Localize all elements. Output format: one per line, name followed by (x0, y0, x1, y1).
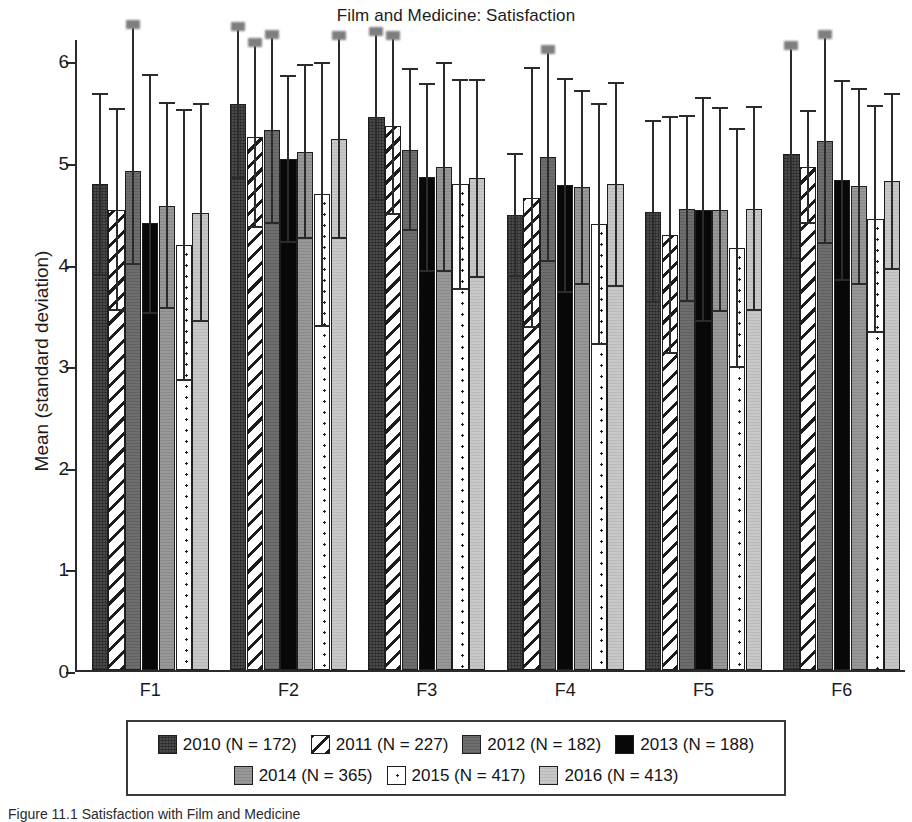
bar-f3-2010[interactable] (368, 40, 384, 670)
bar-f6-2010[interactable] (783, 40, 799, 670)
bar-f6-2016[interactable] (884, 40, 900, 670)
error-bar-cap-upper (369, 27, 383, 36)
error-bar-cap-upper (193, 103, 209, 105)
error-bar-cap-upper (834, 80, 850, 82)
error-bar-cap-lower (540, 260, 556, 262)
legend-item-2015[interactable]: 2015 (N = 417) (387, 766, 526, 786)
legend-swatch-icon (539, 766, 558, 785)
bar-f6-2014[interactable] (851, 40, 867, 670)
bar-f1-2015[interactable] (176, 40, 192, 670)
error-bar-cap-upper (695, 97, 711, 99)
bar-f1-2016[interactable] (192, 40, 208, 670)
error-bar-cap-lower (695, 320, 711, 322)
error-bar-cap-lower (557, 291, 573, 293)
error-bar-cap-upper (469, 79, 485, 81)
error-bar-line (99, 94, 101, 275)
legend-item-2012[interactable]: 2012 (N = 182) (462, 735, 601, 755)
y-tick-label: 0 (58, 661, 69, 683)
error-bar-line (287, 76, 289, 243)
bar-f3-2012[interactable] (402, 40, 418, 670)
legend-item-2016[interactable]: 2016 (N = 413) (539, 766, 678, 786)
bar-group-f4 (507, 40, 624, 670)
error-bar-cap-lower (507, 275, 523, 277)
x-tick-label-f5: F5 (693, 680, 714, 701)
legend-swatch-icon (462, 735, 481, 754)
legend-item-2014[interactable]: 2014 (N = 365) (234, 766, 373, 786)
bar-f6-2013[interactable] (834, 40, 850, 670)
bar-f4-2011[interactable] (523, 40, 539, 670)
bar-f3-2011[interactable] (385, 40, 401, 670)
bar-f4-2015[interactable] (591, 40, 607, 670)
error-bar-cap-upper (176, 109, 192, 111)
error-bar-cap-lower (834, 279, 850, 281)
bar-f5-2013[interactable] (695, 40, 711, 670)
bar-f3-2013[interactable] (419, 40, 435, 670)
bar-f2-2011[interactable] (247, 40, 263, 670)
error-bar-cap-lower (729, 366, 745, 368)
bar-f5-2015[interactable] (729, 40, 745, 670)
bar-f1-2010[interactable] (92, 40, 108, 670)
error-bar-cap-lower (92, 274, 108, 276)
bar-f1-2013[interactable] (142, 40, 158, 670)
bar-f4-2014[interactable] (574, 40, 590, 670)
error-bar-cap-lower (436, 270, 452, 272)
error-bar-line (702, 98, 704, 322)
bar-f2-2014[interactable] (297, 40, 313, 670)
bar-f1-2014[interactable] (159, 40, 175, 670)
legend-row-top: 2010 (N = 172)2011 (N = 227)2012 (N = 18… (138, 729, 774, 760)
legend-label: 2016 (N = 413) (564, 766, 678, 786)
error-bar-line (166, 103, 168, 308)
bar-rect (800, 167, 816, 670)
figure-caption: Figure 11.1 Satisfaction with Film and M… (8, 806, 708, 822)
error-bar-cap-upper (265, 30, 279, 39)
legend-label: 2012 (N = 182) (487, 735, 601, 755)
bar-f4-2010[interactable] (507, 40, 523, 670)
error-bar-line (790, 49, 792, 258)
y-axis-line (75, 40, 77, 672)
bar-f4-2013[interactable] (557, 40, 573, 670)
bar-f2-2012[interactable] (264, 40, 280, 670)
error-bar-cap-lower (645, 301, 661, 303)
error-bar-cap-upper (784, 41, 798, 50)
legend-label: 2011 (N = 227) (336, 735, 449, 755)
error-bar-cap-lower (297, 237, 313, 239)
error-bar-line (615, 83, 617, 286)
error-bar-line (476, 80, 478, 277)
legend-label: 2010 (N = 172) (183, 735, 297, 755)
error-bar-line (807, 111, 809, 223)
bar-f2-2015[interactable] (314, 40, 330, 670)
bar-f3-2016[interactable] (469, 40, 485, 670)
x-tick-label-f3: F3 (416, 680, 437, 701)
error-bar-cap-upper (608, 82, 624, 84)
bar-f2-2010[interactable] (230, 40, 246, 670)
error-bar-line (736, 129, 738, 367)
legend-item-2010[interactable]: 2010 (N = 172) (158, 735, 297, 755)
bar-f5-2016[interactable] (746, 40, 762, 670)
bar-f2-2016[interactable] (331, 40, 347, 670)
error-bar-cap-lower (574, 283, 590, 285)
bar-f6-2015[interactable] (867, 40, 883, 670)
bar-f1-2011[interactable] (108, 40, 124, 670)
bar-f2-2013[interactable] (280, 40, 296, 670)
bar-f4-2016[interactable] (607, 40, 623, 670)
bar-f6-2012[interactable] (817, 40, 833, 670)
bar-f5-2012[interactable] (679, 40, 695, 670)
bar-f4-2012[interactable] (540, 40, 556, 670)
legend-item-2011[interactable]: 2011 (N = 227) (311, 735, 449, 755)
bar-group-f5 (645, 40, 762, 670)
error-bar-line (514, 154, 516, 276)
bar-f5-2010[interactable] (645, 40, 661, 670)
error-bar-line (824, 38, 826, 243)
bar-f5-2011[interactable] (662, 40, 678, 670)
x-axis-line (75, 670, 905, 672)
bar-f3-2015[interactable] (452, 40, 468, 670)
error-bar-cap-lower (368, 199, 384, 201)
error-bar-line (443, 63, 445, 270)
bar-f5-2014[interactable] (712, 40, 728, 670)
legend-item-2013[interactable]: 2013 (N = 188) (615, 735, 754, 755)
bar-f1-2012[interactable] (125, 40, 141, 670)
error-bar-line (652, 121, 654, 302)
bar-f3-2014[interactable] (436, 40, 452, 670)
bar-f6-2011[interactable] (800, 40, 816, 670)
error-bar-line (564, 79, 566, 292)
